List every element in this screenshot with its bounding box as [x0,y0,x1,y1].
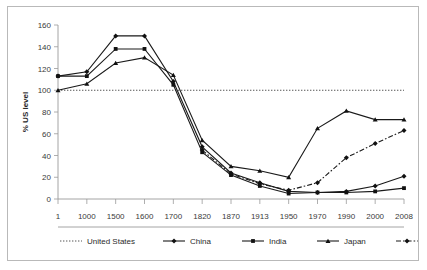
data-point-marker [114,47,118,51]
y-tick-label: 20 [42,173,51,182]
line-chart: % US level 020406080100120140160 1100015… [8,7,418,260]
legend-item-china[interactable]: China [163,237,211,246]
y-tick-label: 40 [42,152,51,161]
chart-container: % US level 020406080100120140160 1100015… [7,6,419,261]
y-tick-label: 0 [47,195,52,204]
y-tick-label: 80 [42,108,51,117]
chart-axes [58,25,404,227]
data-point-marker [85,74,89,78]
legend-label: China [190,237,211,246]
x-tick-label: 1913 [251,212,269,221]
legend-item-south-korea[interactable]: South Korea [396,237,418,246]
data-point-marker [172,239,177,244]
x-tick-label: 1000 [78,212,96,221]
data-point-marker [402,128,407,133]
legend-label: United States [87,237,135,246]
x-tick-label: 1970 [309,212,327,221]
legend-label: Japan [344,237,366,246]
x-tick-label: 1820 [193,212,211,221]
y-tick-label: 140 [38,43,52,52]
y-tick-label: 160 [38,21,52,30]
series-china [56,33,407,195]
data-point-marker [373,183,378,188]
x-axis-tick-labels: 1100015001600170018201870191319501970199… [56,199,414,221]
x-tick-label: 2000 [366,212,384,221]
data-point-marker [200,138,205,142]
series-line [202,130,404,190]
legend-item-united-states[interactable]: United States [60,237,135,246]
chart-legend: United StatesChinaIndiaJapanSouth Korea [60,237,418,246]
series-line [58,36,404,193]
x-tick-label: 1700 [164,212,182,221]
series-line [58,58,404,178]
x-tick-label: 1600 [136,212,154,221]
legend-item-japan[interactable]: Japan [317,237,366,246]
y-axis-tick-labels: 020406080100120140160 [38,21,58,204]
screenshot-root: % US level 020406080100120140160 1100015… [0,0,427,270]
y-axis-title-text: % US level [21,92,30,132]
legend-label: India [269,237,287,246]
x-tick-label: 2008 [395,212,413,221]
data-point-marker [344,109,349,113]
data-point-marker [171,83,175,87]
data-point-marker [402,186,406,190]
y-tick-label: 120 [38,65,52,74]
x-tick-label: 1 [56,212,61,221]
data-point-marker [143,47,147,51]
chart-series [56,33,407,195]
data-point-marker [405,239,410,244]
data-point-marker [373,189,377,193]
data-point-marker [316,191,320,195]
x-tick-label: 1500 [107,212,125,221]
data-point-marker [402,174,407,179]
series-japan [56,55,407,179]
x-tick-label: 1990 [337,212,355,221]
y-tick-label: 100 [38,86,52,95]
y-axis-title: % US level [21,92,30,132]
data-point-marker [373,141,378,146]
legend-item-india[interactable]: India [242,237,287,246]
x-tick-label: 1870 [222,212,240,221]
y-tick-label: 60 [42,130,51,139]
data-point-marker [344,191,348,195]
series-south-korea [200,128,407,193]
data-point-marker [56,74,60,78]
x-tick-label: 1950 [280,212,298,221]
data-point-marker [251,239,255,243]
